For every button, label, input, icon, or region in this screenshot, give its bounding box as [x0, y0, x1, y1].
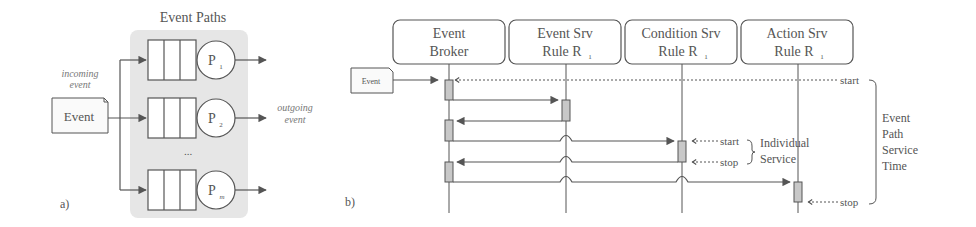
- activation-broker-2: [445, 120, 453, 141]
- path-start-label: start: [840, 74, 859, 86]
- incoming-label-1: incoming: [61, 68, 98, 79]
- panel-b: Event Broker Event Srv Rule R 1 Conditio…: [345, 20, 918, 213]
- svg-text:Rule R: Rule R: [774, 44, 814, 59]
- path-row-1: P 1: [148, 40, 266, 80]
- queue-1: [148, 40, 196, 80]
- svg-text:Rule R: Rule R: [542, 44, 582, 59]
- event-paths-title: Event Paths: [160, 10, 227, 25]
- processor-1: [197, 41, 235, 79]
- svg-text:Event: Event: [433, 26, 466, 41]
- path-time-label-3: Service: [882, 143, 918, 157]
- activation-broker-1: [445, 80, 453, 100]
- svg-text:Event Srv: Event Srv: [537, 26, 593, 41]
- panel-a-label: a): [60, 197, 69, 211]
- processor-2: [197, 99, 235, 137]
- path-time-brace: [869, 80, 876, 204]
- path-time-label-4: Time: [882, 159, 907, 173]
- activation-broker-3: [445, 162, 453, 182]
- path-time-label-2: Path: [882, 127, 903, 141]
- panel-b-label: b): [345, 195, 355, 209]
- panel-a: Event Paths incoming event Event P 1: [52, 10, 313, 218]
- msg-broker-to-condition-srv: [453, 136, 674, 142]
- lifeline-action-srv: Action Srv Rule R 1: [741, 20, 853, 64]
- service-start-label: start: [720, 135, 739, 147]
- ellipsis: ...: [184, 145, 193, 157]
- svg-text:1: 1: [219, 63, 223, 71]
- outgoing-label-1: outgoing: [277, 102, 313, 113]
- svg-text:Action Srv: Action Srv: [766, 26, 827, 41]
- svg-text:1: 1: [820, 53, 824, 61]
- individual-service-label-2: Service: [760, 152, 796, 166]
- event-box-label: Event: [64, 109, 95, 124]
- svg-text:2: 2: [219, 121, 223, 129]
- incoming-label-2: event: [69, 79, 90, 90]
- processor-m: [197, 171, 235, 209]
- msg-broker-to-action-srv: [453, 177, 790, 183]
- panel-b-event-label: Event: [362, 77, 381, 86]
- path-row-m: P m: [148, 170, 266, 210]
- service-stop-label: stop: [720, 156, 739, 168]
- individual-service-label-1: Individual: [760, 136, 810, 150]
- path-stop-label: stop: [840, 196, 859, 208]
- activation-action-srv: [794, 182, 802, 202]
- activation-event-srv: [562, 100, 570, 121]
- svg-text:Condition Srv: Condition Srv: [642, 26, 721, 41]
- individual-service-brace: [747, 140, 755, 164]
- outgoing-label-2: event: [284, 114, 305, 125]
- path-row-2: P 2: [148, 98, 266, 138]
- queue-m: [148, 170, 196, 210]
- svg-text:P: P: [208, 53, 216, 68]
- activation-condition-srv: [678, 141, 686, 162]
- lifeline-event-broker: Event Broker: [393, 20, 505, 64]
- queue-2: [148, 98, 196, 138]
- path-time-label-1: Event: [882, 111, 911, 125]
- svg-text:1: 1: [704, 53, 708, 61]
- diagram-canvas: Event Paths incoming event Event P 1: [0, 0, 976, 227]
- svg-text:P: P: [208, 111, 216, 126]
- svg-text:1: 1: [588, 53, 592, 61]
- svg-text:Rule R: Rule R: [658, 44, 698, 59]
- svg-text:m: m: [219, 193, 224, 201]
- svg-text:Broker: Broker: [430, 44, 469, 59]
- msg-condition-srv-to-broker: [457, 157, 678, 163]
- lifeline-event-srv: Event Srv Rule R 1: [509, 20, 621, 64]
- lifeline-condition-srv: Condition Srv Rule R 1: [625, 20, 737, 64]
- svg-text:P: P: [208, 183, 216, 198]
